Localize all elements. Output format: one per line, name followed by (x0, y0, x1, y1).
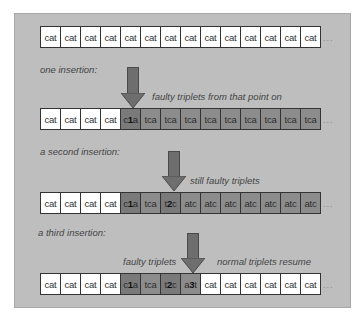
sequence-row-three-insertions: catcatcatcatc1atcat2ca3tcatcatcatcatcatc… (40, 273, 321, 295)
codon-cell: tca (221, 109, 241, 129)
codon-cell: cat (301, 27, 321, 47)
codon-cell: tca (161, 109, 181, 129)
codon-cell: cat (201, 274, 221, 294)
codon-cell: cat (81, 274, 101, 294)
codon-cell: cat (281, 274, 301, 294)
codon-cell: tca (261, 109, 281, 129)
codon-cell: cat (101, 193, 121, 213)
label-faulty-triplets: faulty triplets (123, 256, 176, 267)
codon-cell: cat (81, 109, 101, 129)
codon-cell: c1a (121, 193, 141, 213)
codon-cell: atc (301, 193, 321, 213)
codon-cell: tca (141, 193, 161, 213)
codon-cell: atc (261, 193, 281, 213)
codon-cell: cat (41, 193, 61, 213)
codon-cell: cat (221, 27, 241, 47)
codon-cell: cat (61, 27, 81, 47)
codon-cell: cat (121, 27, 141, 47)
codon-cell: tca (181, 109, 201, 129)
codon-cell: t2c (161, 193, 181, 213)
codon-cell: cat (201, 27, 221, 47)
codon-cell: t2c (161, 274, 181, 294)
label-faulty-from-point: faulty triplets from that point on (152, 91, 282, 102)
codon-cell: c1a (121, 109, 141, 129)
label-still-faulty: still faulty triplets (190, 175, 260, 186)
codon-cell: cat (181, 27, 201, 47)
codon-cell: c1a (121, 274, 141, 294)
codon-cell: cat (101, 27, 121, 47)
sequence-row-original: catcatcatcatcatcatcatcatcatcatcatcatcatc… (40, 26, 321, 48)
codon-cell: atc (221, 193, 241, 213)
codon-cell: atc (281, 193, 301, 213)
codon-cell: atc (241, 193, 261, 213)
codon-cell: atc (201, 193, 221, 213)
codon-cell: tca (301, 109, 321, 129)
sequence-row-two-insertions: catcatcatcatc1atcat2catcatcatcatcatcatca… (40, 192, 321, 214)
ellipsis: ... (323, 33, 334, 43)
codon-cell: cat (41, 109, 61, 129)
codon-cell: tca (201, 109, 221, 129)
sequence-row-one-insertion: catcatcatcatc1atcatcatcatcatcatcatcatcat… (40, 108, 321, 130)
codon-cell: cat (81, 193, 101, 213)
codon-cell: cat (101, 274, 121, 294)
codon-cell: atc (181, 193, 201, 213)
label-normal-resume: normal triplets resume (217, 256, 311, 267)
codon-cell: cat (81, 27, 101, 47)
codon-cell: cat (101, 109, 121, 129)
label-second-insertion: a second insertion: (40, 146, 120, 157)
ellipsis: ... (323, 199, 334, 209)
codon-cell: cat (221, 274, 241, 294)
label-one-insertion: one insertion: (40, 64, 97, 75)
ellipsis: ... (323, 280, 334, 290)
ellipsis: ... (323, 115, 334, 125)
codon-cell: cat (61, 109, 81, 129)
codon-cell: cat (41, 27, 61, 47)
codon-cell: cat (261, 274, 281, 294)
codon-cell: tca (281, 109, 301, 129)
codon-cell: cat (61, 274, 81, 294)
codon-cell: tca (141, 274, 161, 294)
codon-cell: cat (241, 274, 261, 294)
codon-cell: cat (241, 27, 261, 47)
codon-cell: tca (141, 109, 161, 129)
codon-cell: cat (61, 193, 81, 213)
label-third-insertion: a third insertion: (38, 227, 106, 238)
codon-cell: cat (301, 274, 321, 294)
codon-cell: cat (141, 27, 161, 47)
codon-cell: cat (261, 27, 281, 47)
codon-cell: cat (281, 27, 301, 47)
codon-cell: cat (41, 274, 61, 294)
codon-cell: a3t (181, 274, 201, 294)
codon-cell: tca (241, 109, 261, 129)
codon-cell: cat (161, 27, 181, 47)
